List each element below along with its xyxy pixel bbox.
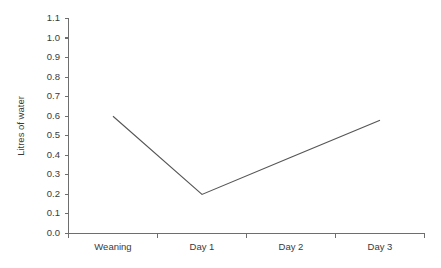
y-tick-label: 0.3: [47, 168, 60, 179]
y-tick-label: 0.6: [47, 110, 60, 121]
y-tick-label: 1.1: [47, 12, 60, 23]
x-tick-label-day-1: Day 1: [190, 241, 215, 252]
chart-figure: 1.1 1.0 0.9 0.8 0.7 0.6 0.5 0.4 0.3 0.2 …: [0, 0, 441, 268]
y-tick-label: 0.8: [47, 71, 60, 82]
x-tick-label-day-2: Day 2: [279, 241, 304, 252]
y-tick-label: 0.7: [47, 90, 60, 101]
chart-background: [0, 0, 441, 268]
line-chart-canvas: 1.1 1.0 0.9 0.8 0.7 0.6 0.5 0.4 0.3 0.2 …: [0, 0, 441, 268]
x-tick-label-day-3: Day 3: [368, 241, 393, 252]
y-tick-label: 0.5: [47, 129, 60, 140]
y-tick-label: 0.9: [47, 51, 60, 62]
y-tick-label: 0.4: [47, 149, 60, 160]
y-tick-label: 0.0: [47, 227, 60, 238]
y-tick-label: 0.2: [47, 188, 60, 199]
y-axis-title: Litres of water: [15, 96, 26, 156]
x-tick-label-weaning: Weaning: [94, 241, 131, 252]
y-tick-label: 0.1: [47, 207, 60, 218]
y-tick-label: 1.0: [47, 32, 60, 43]
